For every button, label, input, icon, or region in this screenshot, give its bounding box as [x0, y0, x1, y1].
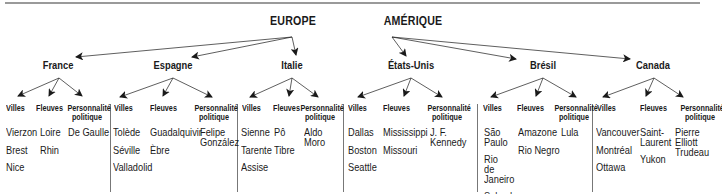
column-header-personnalite: Personnalité politique	[67, 104, 106, 122]
column-fleuves-bresil: Amazone Rio Negro	[518, 127, 560, 162]
arrow-amerique-canada	[392, 37, 630, 59]
country-france: France	[43, 59, 74, 71]
column-fleuves-espagne: Guadalquivir Èbre	[150, 127, 202, 162]
country-canada: Canada	[636, 59, 670, 71]
list-item: Pierre Elliott Trudeau	[675, 127, 707, 157]
list-item: Missouri	[383, 145, 428, 156]
column-header-villes: Villes	[348, 104, 367, 113]
arrow-amerique-bresil	[392, 37, 516, 59]
country-espagne: Espagne	[154, 59, 193, 71]
column-personnalite-bresil: Lula	[561, 127, 578, 145]
column-header-villes: Villes	[6, 104, 25, 113]
column-personnalite-italie: Aldo Moro	[304, 127, 330, 154]
list-item: Nice	[6, 162, 37, 173]
list-item: Vierzon	[6, 127, 37, 138]
list-item: Assise	[241, 162, 272, 173]
column-personnalite-france: De Gaulle	[68, 127, 109, 145]
list-item: Pô	[274, 127, 295, 138]
list-item: Yukon	[640, 154, 666, 165]
list-item: Brest	[6, 145, 37, 156]
column-header-fleuves: Fleuves	[36, 104, 63, 113]
list-item: Ottawa	[596, 162, 639, 173]
column-header-personnalite: Personnalité politique	[194, 104, 233, 122]
column-villes-etats-unis: Dallas Boston Seattle	[348, 127, 377, 180]
arrow-europe-france	[76, 37, 292, 57]
column-fleuves-italie: Pô Tibre	[274, 127, 295, 162]
column-header-villes: Villes	[114, 104, 133, 113]
separator	[477, 104, 478, 192]
column-fleuves-etats-unis: Mississippi Missouri	[383, 127, 428, 162]
list-item: Salvador	[484, 191, 507, 194]
column-header-fleuves: Fleuves	[273, 104, 300, 113]
column-header-fleuves: Fleuves	[640, 104, 667, 113]
list-item: Dallas	[348, 127, 377, 138]
list-item: Sienne	[241, 127, 272, 138]
list-item: Rhin	[40, 145, 61, 156]
column-header-fleuves: Fleuves	[150, 104, 177, 113]
country-italie: Italie	[281, 59, 302, 71]
list-item: Amazone	[518, 127, 560, 138]
list-item: Mississippi	[383, 127, 428, 138]
column-header-villes: Villes	[597, 104, 616, 113]
arrow-europe-espagne	[192, 37, 292, 57]
list-item: Boston	[348, 145, 377, 156]
country-bresil: Brésil	[530, 59, 556, 71]
column-header-personnalite: Personnalité politique	[427, 104, 466, 122]
column-fleuves-france: Loire Rhin	[40, 127, 61, 162]
list-item: De Gaulle	[68, 127, 109, 138]
list-item: São Paulo	[484, 127, 507, 147]
list-item: Loire	[40, 127, 61, 138]
column-personnalite-espagne: Felipe González	[200, 127, 233, 154]
list-item: Tarente	[241, 145, 272, 156]
continent-amerique: AMÉRIQUE	[384, 14, 443, 28]
list-item: Guadalquivir	[150, 127, 202, 138]
column-header-fleuves: Fleuves	[383, 104, 410, 113]
column-villes-espagne: Tolède Séville Valladolid	[113, 127, 152, 180]
list-item: J. F. Kennedy	[430, 127, 465, 147]
list-item: Felipe González	[200, 127, 233, 147]
list-item: Seattle	[348, 162, 377, 173]
list-item: Aldo Moro	[304, 127, 330, 147]
list-item: Séville	[113, 145, 152, 156]
column-header-personnalite: Personnalité politique	[554, 104, 593, 122]
column-header-fleuves: Fleuves	[517, 104, 544, 113]
separator	[343, 104, 344, 192]
column-fleuves-canada: Saint-Laurent Yukon	[640, 127, 666, 172]
list-item: Saint-Laurent	[640, 127, 666, 147]
column-header-villes: Villes	[242, 104, 261, 113]
list-item: Montréal	[596, 145, 639, 156]
column-header-villes: Villes	[483, 104, 502, 113]
continent-europe: EUROPE	[270, 14, 316, 28]
separator	[237, 104, 238, 192]
list-item: Lula	[561, 127, 578, 138]
list-item: Rio de Janeiro	[484, 154, 507, 184]
separator	[110, 104, 111, 192]
list-item: Tolède	[113, 127, 152, 138]
column-header-personnalite: Personnalité politique	[300, 104, 339, 122]
country-etats-unis: États-Unis	[388, 59, 434, 71]
list-item: Vancouver	[596, 127, 639, 138]
list-item: Rio Negro	[518, 145, 560, 156]
column-personnalite-etats-unis: J. F. Kennedy	[430, 127, 465, 154]
list-item: Tibre	[274, 145, 295, 156]
column-villes-france: Vierzon Brest Nice	[6, 127, 37, 180]
arrow-amerique-etatsunis	[392, 37, 406, 56]
column-villes-italie: Sienne Tarente Assise	[241, 127, 272, 180]
column-header-personnalite: Personnalité politique	[680, 104, 719, 122]
list-item: Èbre	[150, 145, 202, 156]
list-item: Valladolid	[113, 162, 152, 173]
arrow-europe-italie	[292, 37, 296, 55]
column-villes-canada: Vancouver Montréal Ottawa	[596, 127, 639, 180]
column-personnalite-canada: Pierre Elliott Trudeau	[675, 127, 707, 164]
column-villes-bresil: São Paulo Rio de Janeiro Salvador	[484, 127, 507, 194]
